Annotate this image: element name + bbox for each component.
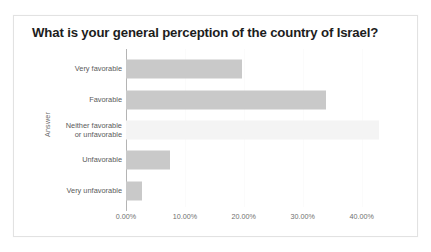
bar-track	[126, 115, 419, 145]
x-axis-ticks: 0.00%10.00%20.00%30.00%40.00%	[14, 212, 419, 226]
bar[interactable]	[126, 151, 170, 170]
bar-track	[126, 84, 419, 114]
x-axis-tick-label: 40.00%	[349, 212, 373, 221]
bar-row: Favorable	[14, 84, 419, 114]
category-label: Favorable	[26, 95, 122, 104]
x-axis-origin-tick	[126, 207, 127, 211]
category-label: Neither favorable or unfavorable	[26, 121, 122, 140]
x-axis-tick-label: 0.00%	[116, 212, 136, 221]
category-label: Unfavorable	[26, 156, 122, 165]
bar-row: Very favorable	[14, 54, 419, 84]
bar-row: Very unfavorable	[14, 176, 419, 206]
category-label: Very unfavorable	[26, 186, 122, 195]
x-axis-tick-label: 30.00%	[291, 212, 315, 221]
bar-track	[126, 54, 419, 84]
bar-row: Neither favorable or unfavorable	[14, 115, 419, 145]
screenshot-root: What is your general perception of the c…	[0, 0, 431, 252]
bar-rows: Very favorableFavorableNeither favorable…	[14, 54, 419, 206]
bar-track	[126, 176, 419, 206]
chart-card: What is your general perception of the c…	[13, 15, 418, 237]
bar[interactable]	[126, 90, 326, 109]
bar-track	[126, 145, 419, 175]
x-axis-tick-label: 20.00%	[232, 212, 256, 221]
bar[interactable]	[126, 181, 142, 200]
category-label: Very favorable	[26, 64, 122, 73]
x-axis-tick-label: 10.00%	[173, 212, 197, 221]
bar[interactable]	[126, 120, 379, 139]
chart-plot-area: Answer Very favorableFavorableNeither fa…	[14, 16, 419, 238]
bar[interactable]	[126, 60, 242, 79]
bar-row: Unfavorable	[14, 145, 419, 175]
